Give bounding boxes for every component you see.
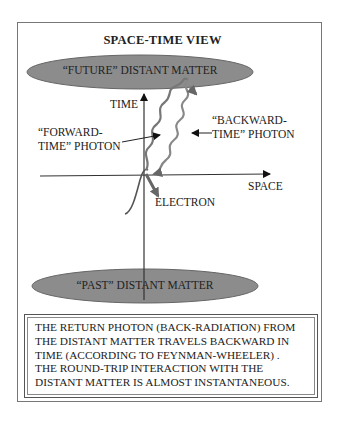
explanation-line: THE RETURN PHOTON (BACK-RADIATION) FROM (35, 321, 307, 335)
explanation-line: THE ROUND-TRIP INTERACTION WITH THE (35, 362, 307, 376)
explanation-line: DISTANT MATTER IS ALMOST INSTANTANEOUS. (35, 376, 307, 390)
space-axis-label: SPACE (248, 180, 283, 193)
backward-photon-label-1: “BACKWARD- (212, 114, 287, 127)
explanation-line: THE DISTANT MATTER TRAVELS BACKWARD IN (35, 335, 307, 349)
forward-photon-label-2: TIME” PHOTON (38, 140, 121, 153)
backward-photon (154, 80, 188, 174)
forward-photon-label-1: “FORWARD- (38, 126, 103, 139)
backward-photon-top-arrow (190, 88, 196, 94)
past-ellipse-label: “PAST” DISTANT MATTER (32, 279, 258, 291)
electron-label: ELECTRON (155, 196, 215, 209)
time-axis-label: TIME (110, 98, 138, 111)
explanation-box: THE RETURN PHOTON (BACK-RADIATION) FROM … (24, 314, 318, 398)
backward-photon-label-2: TIME” PHOTON (212, 128, 295, 141)
forward-pointer (122, 135, 160, 142)
explanation-line: TIME (ACCORDING TO FEYNMAN-WHEELER) . (35, 349, 307, 363)
future-ellipse-label: “FUTURE” DISTANT MATTER (27, 64, 253, 76)
electron-arrow (146, 174, 158, 196)
forward-photon (146, 79, 188, 170)
